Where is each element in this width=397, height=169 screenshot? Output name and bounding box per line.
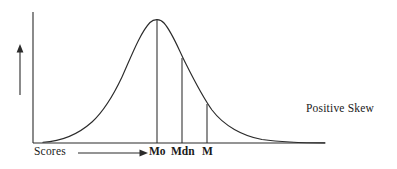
tick-label-median: Mdn <box>171 146 195 158</box>
x-axis-direction-arrow-icon <box>78 149 148 156</box>
distribution-chart-svg <box>0 0 397 169</box>
skew-annotation-label: Positive Skew <box>306 103 374 115</box>
tick-label-mean: M <box>202 146 213 158</box>
tick-label-mode: Mo <box>149 146 166 158</box>
positive-skew-figure: Scores Mo Mdn M Positive Skew <box>0 0 397 169</box>
x-axis-label: Scores <box>34 146 66 158</box>
distribution-curve <box>43 20 325 143</box>
y-axis-direction-arrow-icon <box>17 44 24 95</box>
